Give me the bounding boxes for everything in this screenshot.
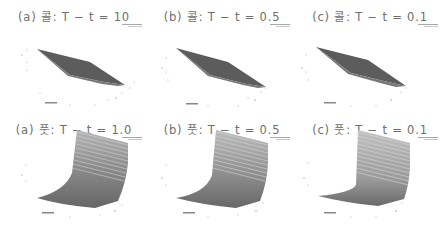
x-axis-label (186, 103, 198, 105)
surface-plot (0, 113, 148, 226)
x-axis-label (183, 212, 195, 214)
x-axis-label (324, 102, 336, 104)
x-axis-label (42, 212, 54, 214)
surface-plot (148, 113, 296, 226)
surface-plot (296, 0, 444, 113)
x-axis-label (45, 102, 57, 104)
panel-call-c: (c) 콜: T − t = 0.1 (296, 0, 444, 113)
surface-plot (296, 113, 444, 226)
figure-grid: (a) 콜: T − t = 10 (b) 콜: T − t = 0.5 (0, 0, 445, 227)
panel-call-a: (a) 콜: T − t = 10 (0, 0, 148, 113)
surface-plot (0, 0, 148, 113)
panel-put-a: (a) 풋: T − t = 1.0 (0, 113, 148, 226)
panel-put-c: (c) 풋: T − t = 0.1 (296, 113, 444, 226)
x-axis-label (324, 212, 336, 214)
surface-plot (148, 0, 296, 113)
panel-put-b: (b) 풋: T − t = 0.5 (148, 113, 296, 226)
panel-call-b: (b) 콜: T − t = 0.5 (148, 0, 296, 113)
